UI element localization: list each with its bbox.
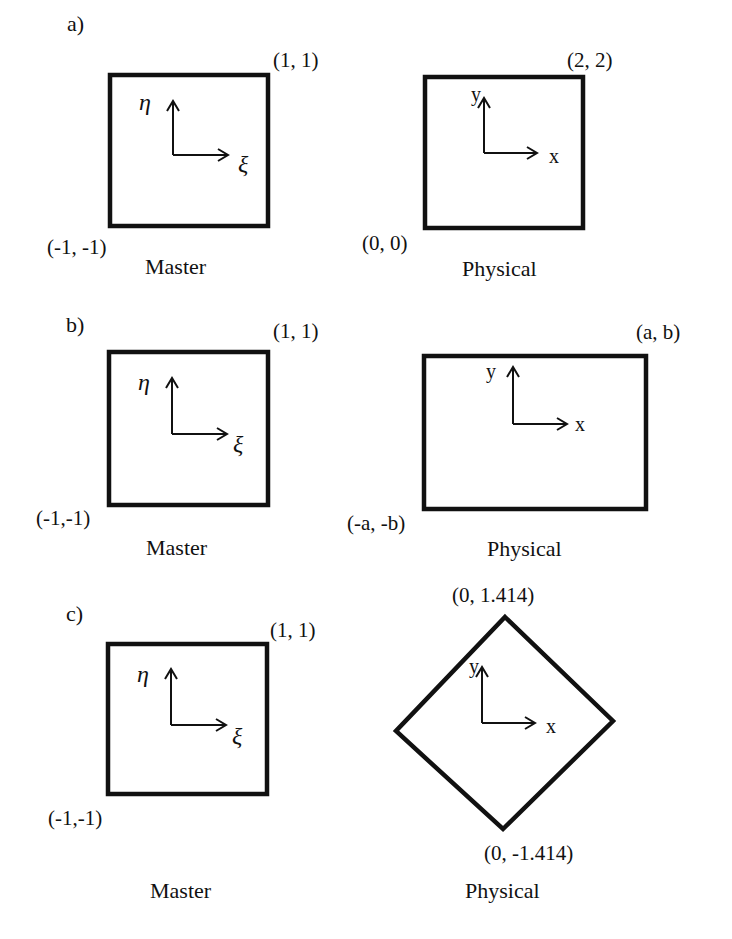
y-axis-label-c: y <box>469 656 479 676</box>
master-caption-a: Master <box>145 256 206 278</box>
physical-corner-bottom-left-b: (-a, -b) <box>347 513 405 534</box>
x-axis-label-b: x <box>575 414 585 434</box>
xi-axis-label-b: ξ <box>233 432 243 456</box>
master-caption-b: Master <box>146 537 207 559</box>
master-caption-c: Master <box>150 880 211 902</box>
master-axes-a <box>173 101 228 155</box>
eta-axis-label-c: η <box>137 662 149 686</box>
eta-axis-label-b: η <box>138 370 150 394</box>
y-axis-label-a: y <box>471 84 481 104</box>
master-corner-top-right-a: (1, 1) <box>273 50 319 71</box>
panel-tag-c: c) <box>66 603 83 625</box>
physical-caption-b: Physical <box>487 538 562 560</box>
physical-caption-c: Physical <box>465 880 540 902</box>
x-axis-label-a: x <box>549 146 559 166</box>
master-corner-top-right-b: (1, 1) <box>273 321 319 342</box>
master-corner-bottom-left-c: (-1,-1) <box>48 808 102 829</box>
y-axis-label-b: y <box>486 361 496 381</box>
master-axes-c <box>171 669 226 725</box>
panel-tag-b: b) <box>66 314 84 336</box>
physical-corner-bottom-left-a: (0, 0) <box>362 233 408 254</box>
physical-corner-top-right-b: (a, b) <box>636 322 680 343</box>
master-corner-bottom-left-b: (-1,-1) <box>36 508 90 529</box>
xi-axis-label-a: ξ <box>238 152 248 176</box>
physical-corner-bottom-c: (0, -1.414) <box>484 843 573 864</box>
master-corner-bottom-left-a: (-1, -1) <box>47 237 106 258</box>
physical-axes-b <box>513 367 567 424</box>
xi-axis-label-c: ξ <box>232 724 242 748</box>
master-square-b <box>109 352 268 505</box>
physical-axes-a <box>484 98 537 153</box>
diagram-canvas <box>0 0 732 939</box>
master-square-c <box>108 644 267 794</box>
eta-axis-label-a: η <box>139 90 151 114</box>
physical-axes-c <box>482 667 535 723</box>
physical-corner-top-c: (0, 1.414) <box>452 585 534 606</box>
panel-tag-a: a) <box>67 13 84 35</box>
physical-corner-top-right-a: (2, 2) <box>567 50 613 71</box>
master-axes-b <box>172 378 227 434</box>
x-axis-label-c: x <box>546 716 556 736</box>
physical-caption-a: Physical <box>462 258 537 280</box>
physical-rectangle-b <box>424 356 646 509</box>
master-corner-top-right-c: (1, 1) <box>270 620 316 641</box>
